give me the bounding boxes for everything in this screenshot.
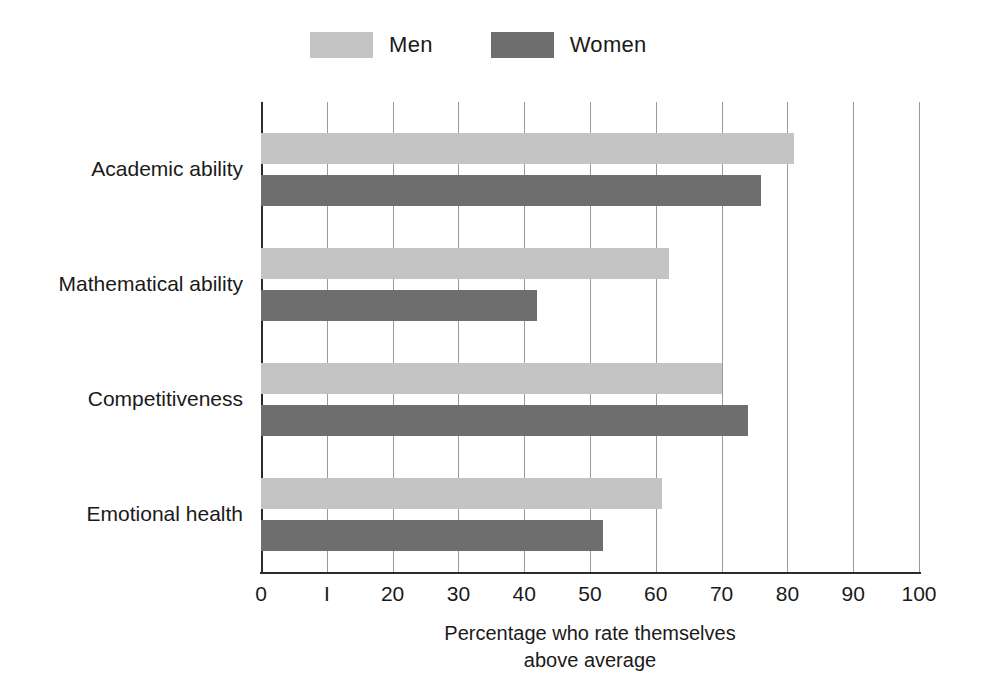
x-tick-label-40: 40 (513, 582, 536, 606)
legend-entry-women: Women (491, 32, 647, 58)
y-axis-category-labels: Academic abilityMathematical abilityComp… (0, 102, 243, 573)
legend-label-women: Women (570, 32, 647, 58)
legend-entry-men: Men (310, 32, 433, 58)
bar-men-competitiveness (261, 363, 722, 394)
x-tick-label-90: 90 (842, 582, 865, 606)
bar-men-academic-ability (261, 133, 794, 164)
chart-legend: Men Women (310, 32, 647, 58)
gridline-100 (919, 102, 920, 573)
x-axis-title: Percentage who rate themselvesabove aver… (261, 620, 919, 674)
x-tick-label-80: 80 (776, 582, 799, 606)
x-axis-title-line-1: Percentage who rate themselves (261, 620, 919, 647)
x-tick-label-30: 30 (447, 582, 470, 606)
gridline-80 (787, 102, 788, 573)
category-label-competitiveness: Competitiveness (88, 387, 243, 411)
x-axis-line (260, 572, 921, 574)
category-label-academic-ability: Academic ability (91, 157, 243, 181)
gridline-70 (722, 102, 723, 573)
bar-women-mathematical-ability (261, 290, 537, 321)
bar-men-emotional-health (261, 478, 662, 509)
x-tick-label-20: 20 (381, 582, 404, 606)
x-tick-label-10: I (324, 582, 330, 606)
legend-swatch-women (491, 32, 554, 58)
plot-area (261, 102, 919, 573)
x-axis-tick-labels: 0I2030405060708090100 (0, 582, 989, 612)
bar-women-competitiveness (261, 405, 748, 436)
bar-chart-figure: Men Women Academic abilityMathematical a… (0, 0, 989, 697)
x-axis-title-line-2: above average (261, 647, 919, 674)
x-tick-label-50: 50 (578, 582, 601, 606)
category-label-mathematical-ability: Mathematical ability (59, 272, 243, 296)
bar-men-mathematical-ability (261, 248, 669, 279)
gridline-90 (853, 102, 854, 573)
x-tick-label-0: 0 (255, 582, 267, 606)
bar-women-academic-ability (261, 175, 761, 206)
category-label-emotional-health: Emotional health (87, 502, 243, 526)
x-tick-label-70: 70 (710, 582, 733, 606)
bar-women-emotional-health (261, 520, 603, 551)
x-tick-label-60: 60 (644, 582, 667, 606)
legend-swatch-men (310, 32, 373, 58)
legend-label-men: Men (389, 32, 433, 58)
x-tick-label-100: 100 (901, 582, 936, 606)
